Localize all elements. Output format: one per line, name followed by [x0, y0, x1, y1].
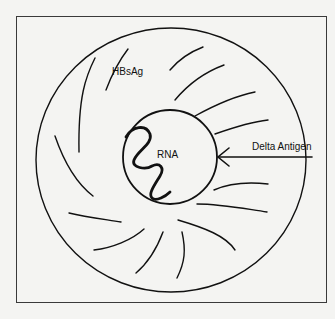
outer-envelope-circle	[36, 28, 306, 292]
rna-genome-squiggle	[126, 128, 170, 200]
rna-label: RNA	[157, 149, 178, 160]
surface-spikes	[55, 47, 268, 278]
delta-antigen-label: Delta Antigen	[252, 141, 312, 152]
hdv-structure-diagram: HBsAg RNA Delta Antigen	[0, 0, 335, 319]
figure-caption	[18, 310, 323, 319]
hbsag-label: HBsAg	[112, 66, 143, 77]
